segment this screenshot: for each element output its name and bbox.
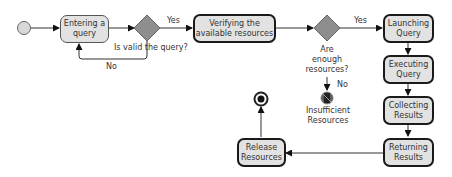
action-verifying-resources: Verifying the available resources <box>193 14 276 43</box>
action-executing-query: Executing Query <box>383 55 434 84</box>
decision-valid-query <box>134 15 160 41</box>
action-launching-query: Launching Query <box>383 14 434 43</box>
action-collecting-results: Collecting Results <box>383 96 434 125</box>
decision-enough-resources <box>314 15 340 41</box>
decision1-no-label: No <box>106 62 117 72</box>
decision2-no-label: No <box>337 80 348 90</box>
decision1-label: Is valid the query? <box>114 43 188 53</box>
initial-node <box>18 22 31 35</box>
flow-final-label: Insufficient Resources <box>305 106 351 126</box>
action-returning-results: Returning Results <box>383 138 434 167</box>
action-release-resources: Release Resources <box>237 138 286 167</box>
decision2-label: Are enough resources? <box>304 45 350 75</box>
decision2-yes-label: Yes <box>354 16 367 26</box>
action-entering-query: Entering a query <box>60 15 109 43</box>
decision1-yes-label: Yes <box>167 16 180 26</box>
